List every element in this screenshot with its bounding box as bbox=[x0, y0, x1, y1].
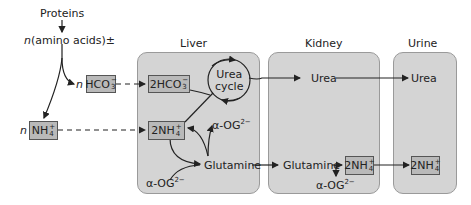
kidney-urea: Urea bbox=[311, 73, 337, 84]
liver-2hco3-box: 2HCO−3 bbox=[148, 75, 190, 93]
amino-acids-text: (amino acids)± bbox=[31, 34, 115, 47]
proteins-label: Proteins bbox=[40, 8, 84, 19]
urine-2nh4-box: 2NH+4 bbox=[411, 156, 440, 175]
kidney-glutamine: Glutamine bbox=[283, 160, 340, 171]
hco3-box: HCO−3 bbox=[86, 75, 116, 93]
kidney-alpha-og: α-OG2− bbox=[316, 180, 355, 191]
urine-urea: Urea bbox=[411, 73, 437, 84]
nh4-coefficient: n bbox=[20, 125, 27, 136]
amino-acids-label: n(amino acids)± bbox=[24, 35, 115, 46]
pathway-arrows bbox=[0, 0, 471, 205]
liver-alpha-og-out: α-OG2− bbox=[212, 120, 251, 131]
liver-glutamine: Glutamine bbox=[204, 160, 261, 171]
hco3-coefficient: n bbox=[76, 79, 83, 90]
kidney-2nh4-box: 2NH+4 bbox=[345, 156, 374, 175]
nh4-box: NH+4 bbox=[29, 121, 58, 140]
liver-2nh4-box: 2NH+4 bbox=[148, 121, 185, 140]
liver-alpha-og-in: α-OG2− bbox=[146, 178, 185, 189]
amino-acids-coefficient: n bbox=[24, 34, 31, 47]
urea-cycle-label: Ureacycle bbox=[215, 69, 243, 93]
